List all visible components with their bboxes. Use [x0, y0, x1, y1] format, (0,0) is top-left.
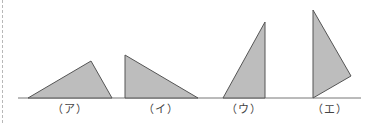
label-a: （ア） [52, 100, 88, 116]
triangle-u [223, 22, 265, 98]
label-u: （ウ） [226, 100, 262, 116]
triangle-e [313, 10, 351, 98]
triangle-i [125, 55, 198, 98]
label-e: （エ） [312, 100, 348, 116]
label-i: （イ） [143, 100, 179, 116]
triangle-a [28, 61, 112, 98]
